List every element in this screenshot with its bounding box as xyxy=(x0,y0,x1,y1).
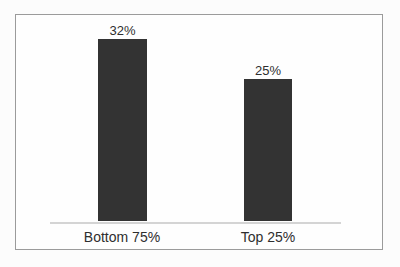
chart-frame: 32% 25% Bottom 75% Top 25% xyxy=(15,14,383,250)
bar-value-label: 32% xyxy=(109,24,135,37)
x-axis-category-label: Top 25% xyxy=(208,229,328,245)
bar-bottom-75 xyxy=(98,39,147,221)
bar-top-25 xyxy=(244,79,292,221)
bar-group-bottom-75: 32% xyxy=(98,24,147,221)
bar-group-top-25: 25% xyxy=(244,64,292,221)
x-axis-category-label: Bottom 75% xyxy=(62,229,182,245)
bar-value-label: 25% xyxy=(255,64,281,77)
x-axis-baseline xyxy=(50,222,341,224)
